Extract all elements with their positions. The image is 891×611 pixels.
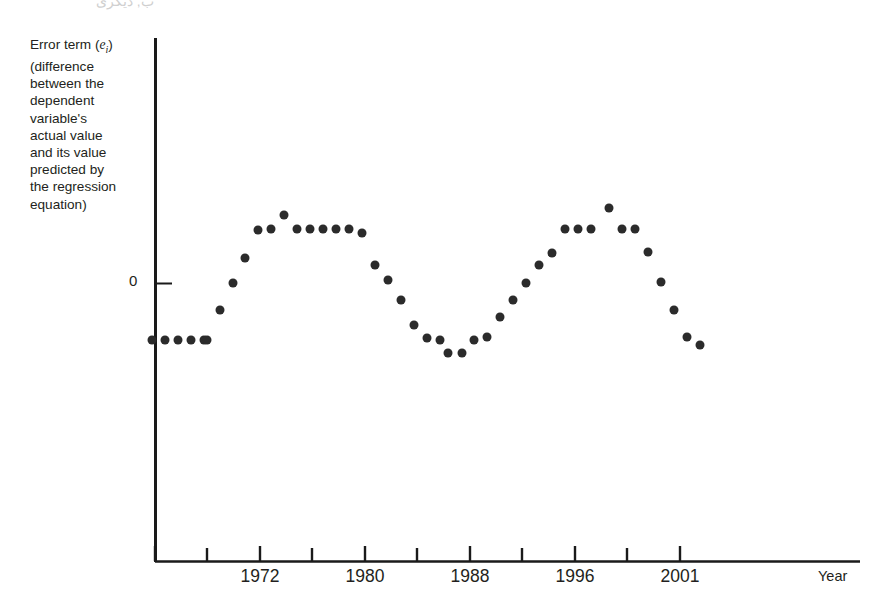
data-point (605, 204, 614, 213)
data-point (561, 225, 570, 234)
data-point (371, 261, 380, 270)
x-tick-label-1996: 1996 (556, 566, 595, 587)
data-point (618, 225, 627, 234)
data-point (587, 225, 596, 234)
data-point (410, 321, 419, 330)
data-point (423, 334, 432, 343)
data-point (293, 225, 302, 234)
data-point (229, 279, 238, 288)
residual-scatter-figure: ب, ديگری Error term (ei) (difference bet… (0, 0, 891, 611)
data-point (267, 225, 276, 234)
data-point (161, 336, 170, 345)
data-point (644, 248, 653, 257)
data-point (509, 296, 518, 305)
x-tick-label-1988: 1988 (451, 566, 490, 587)
data-point (306, 225, 315, 234)
data-point (358, 229, 367, 238)
data-point (345, 225, 354, 234)
x-tick-label-2001: 2001 (661, 566, 700, 587)
data-point (332, 225, 341, 234)
data-point (496, 313, 505, 322)
data-point (444, 349, 453, 358)
data-point (241, 254, 250, 263)
data-point (683, 333, 692, 342)
data-point (397, 296, 406, 305)
data-point (384, 276, 393, 285)
data-point (436, 336, 445, 345)
data-point (631, 225, 640, 234)
data-point (470, 336, 479, 345)
data-point (148, 336, 157, 345)
data-point (522, 279, 531, 288)
data-point-group (148, 204, 705, 358)
plot-canvas (0, 0, 891, 611)
data-point (280, 211, 289, 220)
data-point (548, 249, 557, 258)
data-point (458, 349, 467, 358)
data-point (174, 336, 183, 345)
data-point (319, 225, 328, 234)
data-point (187, 336, 196, 345)
x-axis-ticks (155, 546, 680, 561)
data-point (203, 336, 212, 345)
data-point (216, 306, 225, 315)
data-point (670, 306, 679, 315)
data-point (657, 278, 666, 287)
x-tick-label-1980: 1980 (346, 566, 385, 587)
x-tick-label-1972: 1972 (241, 566, 280, 587)
data-point (696, 341, 705, 350)
data-point (574, 225, 583, 234)
data-point (535, 261, 544, 270)
data-point (483, 333, 492, 342)
x-axis-title: Year (818, 568, 847, 584)
data-point (254, 226, 263, 235)
